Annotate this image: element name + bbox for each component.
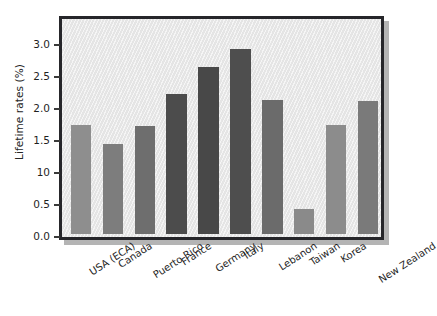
y-axis-tick-label: 2.5 <box>33 70 50 82</box>
x-axis-tick-label: New Zealand <box>376 240 437 285</box>
y-axis: 0.00.5101.52.02.53.0 <box>59 16 384 240</box>
y-axis-tick-label: 10 <box>37 166 50 178</box>
x-axis: USA (ECA)CanadaPuerto RicoFranceGermanyI… <box>59 240 384 316</box>
y-axis-tick-mark <box>54 204 60 206</box>
y-axis-tick-mark <box>54 236 60 238</box>
y-axis-tick-mark <box>54 108 60 110</box>
y-axis-tick-label: 3.0 <box>33 38 50 50</box>
y-axis-tick-mark <box>54 140 60 142</box>
y-axis-tick-label: 0.5 <box>33 198 50 210</box>
y-axis-tick-label: 2.0 <box>33 102 50 114</box>
y-axis-tick-label: 0.0 <box>33 230 50 242</box>
y-axis-tick-mark <box>54 76 60 78</box>
y-axis-tick-mark <box>54 44 60 46</box>
y-axis-title: Lifetime rates (%) <box>13 27 25 197</box>
y-axis-tick-mark <box>54 172 60 174</box>
y-axis-tick-label: 1.5 <box>33 134 50 146</box>
x-axis-tick-label: Korea <box>338 240 368 265</box>
